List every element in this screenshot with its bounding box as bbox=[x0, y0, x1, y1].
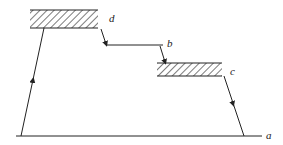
transition-c-to-a-arrow bbox=[224, 76, 244, 136]
label-c: c bbox=[230, 66, 235, 77]
level-d-hatched-box bbox=[30, 10, 98, 28]
energy-level-diagram bbox=[0, 0, 283, 145]
transition-d-to-b-arrow bbox=[101, 29, 106, 44]
level-c-hatched-box bbox=[157, 63, 222, 76]
label-b: b bbox=[167, 38, 173, 49]
label-a: a bbox=[266, 130, 272, 141]
transition-a-to-d-arrow bbox=[21, 28, 44, 136]
transition-b-to-c-arrow bbox=[160, 46, 165, 62]
label-d: d bbox=[109, 13, 115, 24]
